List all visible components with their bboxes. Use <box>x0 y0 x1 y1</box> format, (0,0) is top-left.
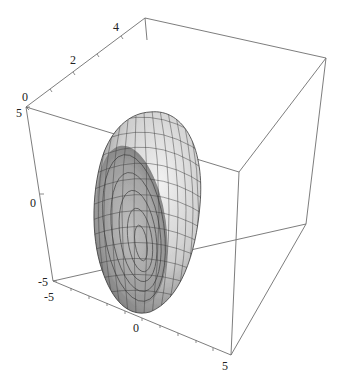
z-tick-5: 5 <box>16 106 22 120</box>
x-tick-neg5: -5 <box>44 290 54 304</box>
surface-plot-3d: 0 2 4 5 0 -5 -5 0 5 <box>0 0 351 387</box>
x-tick-0: 0 <box>133 321 139 335</box>
y-axis: 0 2 4 <box>22 20 123 110</box>
y-tick-4: 4 <box>113 20 119 34</box>
z-tick-0: 0 <box>30 196 36 210</box>
y-tick-0: 0 <box>22 90 28 104</box>
y-tick-2: 2 <box>70 53 76 67</box>
x-tick-5: 5 <box>222 359 228 373</box>
z-tick-neg5: -5 <box>38 275 48 289</box>
z-axis: 5 0 -5 <box>16 106 57 289</box>
surface-shell <box>87 110 205 316</box>
